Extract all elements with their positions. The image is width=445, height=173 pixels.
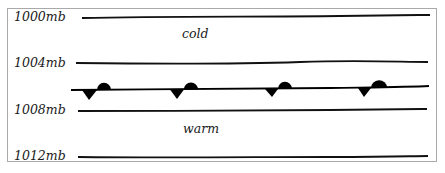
cold-front-triangle-icon — [358, 88, 371, 97]
warm-front-semicircle-icon — [97, 83, 111, 90]
warm-front-semicircle-icon — [371, 80, 387, 88]
cold-front-triangle-icon — [82, 90, 97, 100]
warm-front-semicircle-icon — [184, 83, 198, 90]
isobar-line-1008 — [78, 109, 427, 111]
isobar-line-1000 — [82, 15, 430, 18]
region-label-warm: warm — [183, 123, 219, 136]
region-label-cold: cold — [182, 28, 209, 41]
isobar-label-1008: 1008mb — [14, 104, 66, 117]
isobar-label-1000: 1000mb — [14, 11, 66, 24]
warm-front-semicircle-icon — [278, 82, 292, 89]
cold-front-triangle-icon — [265, 89, 278, 97]
isobar-diagram — [0, 0, 445, 173]
isobar-label-1004: 1004mb — [14, 57, 66, 70]
stationary-front — [71, 80, 429, 100]
cold-front-triangle-icon — [170, 90, 184, 99]
isobar-label-1012: 1012mb — [14, 150, 66, 163]
isobar-line-1012 — [78, 156, 428, 157]
isobar-line-1004 — [76, 61, 428, 64]
